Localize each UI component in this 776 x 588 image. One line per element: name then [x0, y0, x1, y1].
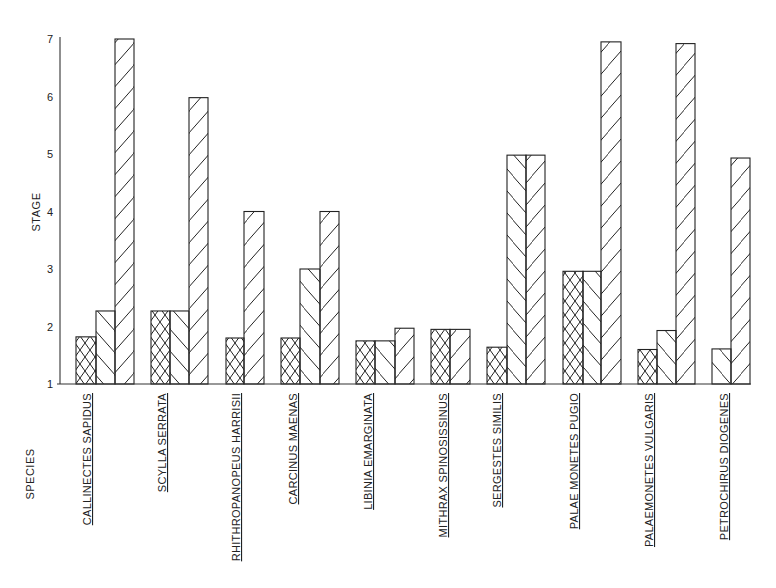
species-label: LIBINIA EMARGINATA [362, 393, 374, 510]
bar-chart: 1234567 STAGE SPECIES CALLINECTES SAPIDU… [0, 0, 776, 588]
y-tick-label: 5 [47, 148, 53, 160]
y-axis-ticks: 1234567 [47, 33, 53, 390]
bar-slash [244, 212, 264, 385]
bar-slash [115, 39, 134, 384]
species-label: PALAEMONETES VULGARIS [643, 393, 655, 547]
species-label: SERGESTES SIMILIS [491, 393, 503, 508]
bar-crosshatch [638, 350, 657, 385]
bar-slash [450, 329, 470, 384]
y-tick-label: 7 [47, 33, 53, 45]
y-tick-label: 6 [47, 91, 53, 103]
bar-slash [601, 42, 621, 384]
y-tick-label: 2 [47, 321, 53, 333]
bar-crosshatch [76, 337, 96, 384]
bars [76, 39, 750, 384]
bar-slash [526, 155, 545, 384]
y-tick-label: 4 [47, 206, 53, 218]
species-label: CARCINUS MAENAS [287, 393, 299, 504]
bar-backslash [507, 155, 526, 384]
bar-crosshatch [431, 329, 450, 384]
bar-backslash [657, 331, 676, 384]
bar-crosshatch [563, 271, 583, 384]
species-label: MITHRAX SPINOSISSINUS [437, 393, 449, 537]
bar-crosshatch [226, 338, 244, 384]
bar-crosshatch [151, 311, 170, 384]
bar-backslash [96, 311, 115, 384]
y-tick-label: 3 [47, 263, 53, 275]
species-label: PETROCHIRUS DIOGENES [718, 393, 730, 540]
bar-backslash [712, 349, 731, 384]
bar-crosshatch [356, 341, 375, 384]
y-axis-title: STAGE [30, 193, 42, 232]
bar-slash [189, 98, 208, 384]
bar-crosshatch [281, 338, 300, 384]
bar-backslash [170, 311, 189, 384]
species-label: PALAE MONETES PUGIO [568, 393, 580, 529]
species-label: RHITHROPANOPEUS HARRISII [230, 393, 242, 561]
bar-crosshatch [487, 347, 507, 384]
species-labels: CALLINECTES SAPIDUSSCYLLA SERRATARHITHRO… [81, 393, 730, 562]
bar-slash [731, 158, 750, 384]
x-axis-title: SPECIES [24, 448, 36, 499]
bar-slash [395, 328, 414, 384]
bar-backslash [583, 271, 601, 384]
bar-backslash [375, 341, 395, 384]
y-tick-label: 1 [47, 378, 53, 390]
species-label: CALLINECTES SAPIDUS [81, 393, 93, 525]
bar-slash [320, 212, 339, 385]
bar-backslash [300, 269, 320, 384]
bar-slash [676, 44, 695, 384]
species-label: SCYLLA SERRATA [156, 393, 168, 493]
